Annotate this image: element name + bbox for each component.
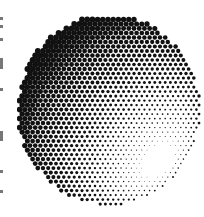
edge-mark (0, 88, 3, 91)
edge-mark (0, 131, 3, 141)
edge-mark (0, 190, 3, 193)
edge-mark (0, 38, 3, 41)
edge-mark (0, 25, 3, 28)
sphere-graphic (17, 14, 201, 206)
clipped-edge-text (0, 0, 6, 217)
edge-mark (0, 170, 3, 173)
edge-mark (0, 58, 3, 69)
halftone-sphere (17, 14, 201, 206)
edge-mark (0, 17, 3, 20)
